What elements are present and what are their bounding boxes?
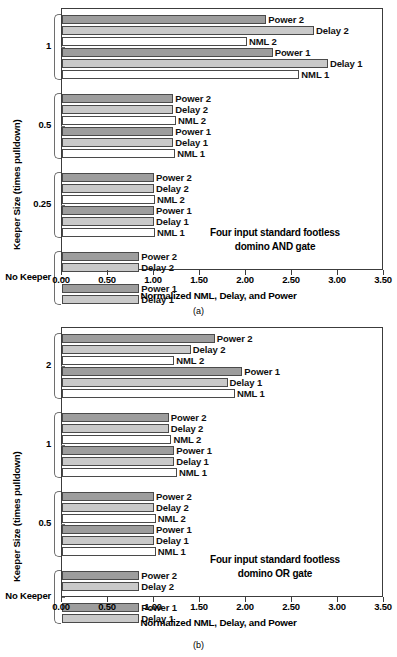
bar-row: NML 1 [62,149,384,158]
bar-label: Power 2 [139,252,177,262]
bar-row: Power 2 [62,94,384,103]
bar-delay [62,59,328,68]
x-axis-title-text-b: Normalized NML, Delay, and Power [100,617,296,628]
bar-label: NML 1 [299,70,329,80]
caption-a: (a) [0,306,397,316]
bar-label: Delay 1 [154,536,189,546]
bar-power [62,206,154,215]
bar-row: Delay 1 [62,536,384,545]
bar-delay [62,345,191,354]
x-axis-title-text-a: Normalized NML, Delay, and Power [100,290,296,301]
bar-row: Power 1 [62,206,384,215]
figure-container: Keeper Size (times pulldown) Power 2Dela… [0,0,397,657]
bar-nml [62,70,299,79]
bar-delay [62,217,154,226]
bar-nml [62,389,235,398]
bar-delay [62,378,228,387]
bar-row: NML 2 [62,37,384,46]
bar-nml [62,228,155,237]
bar-label: Delay 2 [169,424,204,434]
bar-label: Delay 2 [314,26,349,36]
x-tick-label: 3.00 [328,274,346,285]
bar-nml [62,116,176,125]
bar-power [62,571,139,580]
annotation-line-1: Four input standard footless [180,553,370,567]
group-brace [54,412,61,478]
x-tick-label: 3.50 [374,274,392,285]
bar-label: Delay 1 [154,217,189,227]
bar-row: Power 2 [62,173,384,182]
bar-row: Power 1 [62,446,384,455]
bar-power [62,94,173,103]
bar-label: Power 2 [266,15,304,25]
bar-label: Power 1 [273,48,311,58]
x-axis-title-a: Normalized NML, Delay, and Power [0,290,397,301]
bar-row: Delay 1 [62,378,384,387]
bar-power [62,127,173,136]
bar-power [62,446,174,455]
group-brace [54,172,61,238]
bar-label: NML 1 [235,389,265,399]
bar-label: Delay 2 [154,503,189,513]
bar-nml [62,468,177,477]
group-brace [54,570,61,624]
x-tick-label: 1.50 [190,601,208,612]
x-tick-label: 1.00 [144,601,162,612]
bar-power [62,48,273,57]
bar-power [62,525,154,534]
bar-label: Delay 2 [154,184,189,194]
bar-row: Power 2 [62,15,384,24]
bar-row: NML 2 [62,356,384,365]
bar-delay [62,503,154,512]
bar-row: Power 1 [62,525,384,534]
bar-row: Power 1 [62,127,384,136]
bar-power [62,252,139,261]
y-group-label: 0.25 [0,198,51,209]
x-tick-label: 0.50 [98,601,116,612]
bar-label: NML 1 [175,149,205,159]
bar-row: NML 1 [62,70,384,79]
bar-delay [62,536,154,545]
bar-row: Power 1 [62,367,384,376]
x-tick-label: 0.50 [98,274,116,285]
group-brace [54,93,61,159]
bar-label: Power 2 [154,492,192,502]
group-brace [54,333,61,399]
bar-power [62,334,215,343]
x-tick-labels-a: 0.000.501.001.502.002.503.003.50 [0,274,397,286]
bar-row: Delay 2 [62,503,384,512]
panel-a: Keeper Size (times pulldown) Power 2Dela… [0,0,397,327]
bar-nml [62,547,156,556]
x-tick-label: 0.00 [52,274,70,285]
panel-b: Keeper Size (times pulldown) Power 2Dela… [0,317,397,657]
annotation-line-1: Four input standard footless [180,226,370,240]
bar-row: Delay 2 [62,345,384,354]
bar-row: NML 1 [62,389,384,398]
y-group-label: 1 [0,438,51,449]
bar-label: NML 2 [171,435,201,445]
bar-row: NML 1 [62,468,384,477]
x-tick-label: 0.00 [52,601,70,612]
bar-row: Power 1 [62,48,384,57]
bar-label: NML 1 [177,468,207,478]
bar-label: Power 2 [173,94,211,104]
bar-nml [62,149,175,158]
bar-row: Power 2 [62,492,384,501]
bar-row: Delay 1 [62,217,384,226]
bar-delay [62,138,173,147]
bar-row: Delay 1 [62,138,384,147]
bar-label: Power 1 [154,206,192,216]
x-tick-label: 2.00 [236,274,254,285]
bar-delay [62,26,314,35]
annotation-a: Four input standard footless domino AND … [180,226,370,254]
x-tick-label: 2.50 [282,274,300,285]
bar-delay [62,457,174,466]
bar-delay [62,424,169,433]
bar-delay [62,582,139,591]
caption-b: (b) [0,640,397,650]
bar-nml [62,356,174,365]
x-tick-label: 2.50 [282,601,300,612]
bar-label: Delay 2 [191,345,226,355]
x-tick-label: 2.00 [236,601,254,612]
y-group-label: 0.5 [0,119,51,130]
